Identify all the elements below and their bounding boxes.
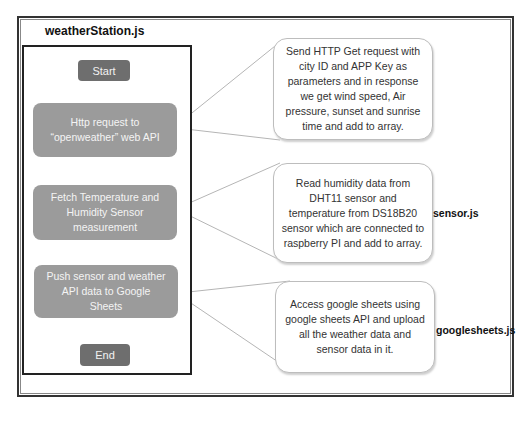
step-2-line-3: measurement: [51, 220, 159, 235]
callout-sensor-text: Read humidity data from DHT11 sensor and…: [280, 176, 426, 251]
end-label: End: [95, 349, 115, 361]
step-3-line-3: Sheets: [46, 299, 165, 314]
callout-weather-api: Send HTTP Get request with city ID and A…: [273, 38, 433, 140]
file-label-googlesheets: googlesheets.js: [436, 324, 515, 336]
step-http-request: Http request to “openweather” web API: [33, 103, 177, 157]
step-fetch-sensor: Fetch Temperature and Humidity Sensor me…: [33, 185, 177, 240]
callout-googlesheets-text: Access google sheets using google sheets…: [282, 297, 428, 357]
start-label: Start: [92, 65, 115, 77]
callout-weather-api-text: Send HTTP Get request with city ID and A…: [280, 44, 426, 134]
file-label-sensor: sensor.js: [433, 207, 479, 219]
start-node: Start: [78, 60, 130, 81]
callout-googlesheets: Access google sheets using google sheets…: [275, 281, 435, 373]
callout-sensor: Read humidity data from DHT11 sensor and…: [273, 163, 433, 263]
step-3-line-2: API data to Google: [46, 284, 165, 299]
step-1-line-2: “openweather” web API: [50, 130, 159, 145]
step-2-line-2: Humidity Sensor: [51, 205, 159, 220]
end-node: End: [80, 344, 130, 366]
step-push-google-sheets: Push sensor and weather API data to Goog…: [34, 265, 178, 318]
step-3-line-1: Push sensor and weather: [46, 269, 165, 284]
step-2-line-1: Fetch Temperature and: [51, 190, 159, 205]
step-1-line-1: Http request to: [50, 115, 159, 130]
